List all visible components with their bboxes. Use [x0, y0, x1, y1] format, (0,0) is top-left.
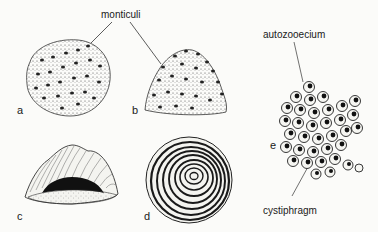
panel-d-colony	[146, 137, 232, 223]
label-monticuli: monticuli	[101, 9, 140, 21]
label-cystiphragm: cystiphragm	[263, 205, 317, 217]
panel-a-colony	[27, 40, 111, 116]
panel-letter-c: c	[17, 210, 23, 222]
panel-e-autozooecia-cluster	[280, 82, 364, 180]
panel-c-colony	[25, 145, 118, 204]
panel-letter-a: a	[17, 104, 23, 116]
label-autozooecium: autozooecium	[263, 29, 325, 41]
panel-letter-d: d	[144, 210, 150, 222]
panel-letter-e: e	[270, 139, 276, 151]
panel-letter-b: b	[132, 104, 138, 116]
